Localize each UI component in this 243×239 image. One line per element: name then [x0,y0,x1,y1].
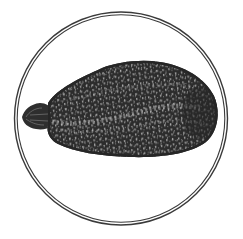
illustration-canvas [0,0,243,239]
fish [22,55,225,165]
fish-illustration [0,0,243,239]
